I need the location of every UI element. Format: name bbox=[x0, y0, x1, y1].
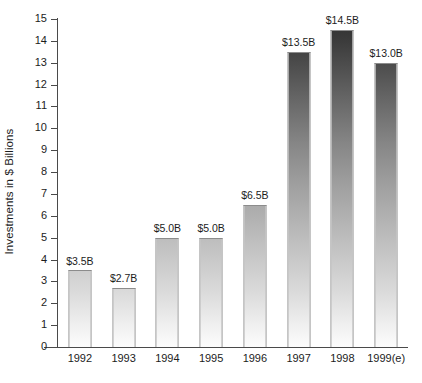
y-tick-label: 6 bbox=[15, 210, 57, 221]
y-tick-label-wrap: 11 bbox=[0, 100, 57, 112]
bar[interactable] bbox=[287, 52, 310, 347]
bar[interactable] bbox=[112, 288, 135, 347]
bar-slot: $5.0B bbox=[146, 19, 190, 347]
y-tick-label-wrap: 5 bbox=[0, 232, 57, 244]
bar[interactable] bbox=[375, 63, 398, 347]
bar[interactable] bbox=[331, 30, 354, 347]
y-tick-label: 13 bbox=[15, 57, 57, 68]
x-axis-line bbox=[44, 347, 408, 348]
y-tick-label: 8 bbox=[15, 166, 57, 177]
x-tick-label: 1997 bbox=[286, 353, 310, 364]
y-tick-label-wrap: 2 bbox=[0, 297, 57, 309]
bar-chart: Investments in $ Billions 15141312111098… bbox=[0, 0, 422, 383]
y-tick-label-wrap: 8 bbox=[0, 166, 57, 178]
y-tick-label-wrap: 12 bbox=[0, 79, 57, 91]
bar[interactable] bbox=[243, 205, 266, 347]
y-tick-label-wrap: 1 bbox=[0, 319, 57, 331]
y-tick-label-wrap: 4 bbox=[0, 254, 57, 266]
x-tick-label: 1995 bbox=[199, 353, 223, 364]
bar-slot: $13.5B bbox=[277, 19, 321, 347]
y-tick-label-wrap: 9 bbox=[0, 144, 57, 156]
bar-value-label: $3.5B bbox=[66, 256, 93, 267]
y-tick-label: 12 bbox=[15, 79, 57, 90]
y-tick-label: 3 bbox=[15, 275, 57, 286]
bar-gradient-fill bbox=[332, 30, 353, 347]
bar-slot: $13.0B bbox=[364, 19, 408, 347]
plot-area: $3.5B$2.7B$5.0B$5.0B$6.5B$13.5B$14.5B$13… bbox=[58, 19, 408, 347]
y-tick-label-wrap: 15 bbox=[0, 13, 57, 25]
y-tick-label: 4 bbox=[15, 254, 57, 265]
bar-slot: $2.7B bbox=[102, 19, 146, 347]
y-tick-label: 0 bbox=[15, 341, 57, 352]
y-tick-label: 15 bbox=[15, 13, 57, 24]
bar-slot: $6.5B bbox=[233, 19, 277, 347]
y-tick-label-wrap: 10 bbox=[0, 122, 57, 134]
bar[interactable] bbox=[200, 238, 223, 347]
y-tick-label: 1 bbox=[15, 319, 57, 330]
bar-gradient-fill bbox=[113, 288, 134, 347]
bar[interactable] bbox=[68, 270, 91, 347]
x-tick-label: 1994 bbox=[155, 353, 179, 364]
y-tick-label: 9 bbox=[15, 144, 57, 155]
bar-value-label: $6.5B bbox=[241, 190, 268, 201]
bar-gradient-fill bbox=[376, 63, 397, 347]
bar-gradient-fill bbox=[288, 52, 309, 347]
y-tick-label-wrap: 7 bbox=[0, 188, 57, 200]
x-tick-label: 1999(e) bbox=[367, 353, 405, 364]
bar-slot: $3.5B bbox=[58, 19, 102, 347]
bar-value-label: $5.0B bbox=[154, 223, 181, 234]
y-tick-label-wrap: 6 bbox=[0, 210, 57, 222]
bar-slot: $5.0B bbox=[189, 19, 233, 347]
bar-value-label: $14.5B bbox=[326, 15, 359, 26]
x-tick-label: 1992 bbox=[68, 353, 92, 364]
bar-slot: $14.5B bbox=[321, 19, 365, 347]
bar-gradient-fill bbox=[244, 205, 265, 347]
y-tick-label: 11 bbox=[15, 100, 57, 111]
y-tick-label: 14 bbox=[15, 35, 57, 46]
bar-gradient-fill bbox=[157, 238, 178, 347]
bar-gradient-fill bbox=[69, 270, 90, 347]
y-tick-label: 5 bbox=[15, 232, 57, 243]
y-tick-label: 10 bbox=[15, 122, 57, 133]
bar-value-label: $5.0B bbox=[197, 223, 224, 234]
y-tick-label: 2 bbox=[15, 297, 57, 308]
bar-value-label: $13.0B bbox=[369, 48, 402, 59]
y-tick-label-wrap: 14 bbox=[0, 35, 57, 47]
bar-value-label: $13.5B bbox=[282, 37, 315, 48]
x-tick-label: 1996 bbox=[243, 353, 267, 364]
x-tick-label: 1998 bbox=[330, 353, 354, 364]
y-tick-label: 7 bbox=[15, 188, 57, 199]
bar[interactable] bbox=[156, 238, 179, 347]
bar-gradient-fill bbox=[201, 238, 222, 347]
y-tick-label-wrap: 0 bbox=[0, 341, 57, 353]
bar-value-label: $2.7B bbox=[110, 273, 137, 284]
x-tick-label: 1993 bbox=[111, 353, 135, 364]
y-tick-label-wrap: 3 bbox=[0, 275, 57, 287]
y-tick-label-wrap: 13 bbox=[0, 57, 57, 69]
